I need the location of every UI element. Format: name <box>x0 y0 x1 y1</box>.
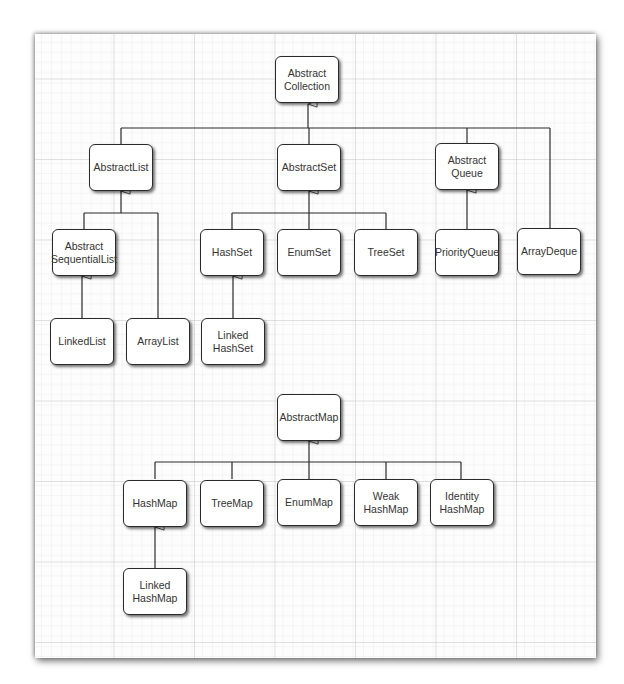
node-abstract-map: AbstractMap <box>277 394 341 441</box>
node-priority-queue: PriorityQueue <box>435 229 499 276</box>
node-enum-map: EnumMap <box>277 479 341 526</box>
node-abstract-set: AbstractSet <box>277 144 341 191</box>
node-enum-set: EnumSet <box>277 229 341 276</box>
node-tree-set: TreeSet <box>354 229 418 276</box>
node-identity-hash-map: Identity HashMap <box>430 479 494 526</box>
node-linked-list: LinkedList <box>50 318 114 365</box>
node-linked-hash-set: Linked HashSet <box>201 318 265 365</box>
node-abstract-sequential-list: Abstract SequentialList <box>52 229 116 276</box>
node-abstract-queue: Abstract Queue <box>435 143 499 190</box>
node-array-list: ArrayList <box>126 318 190 365</box>
node-linked-hash-map: Linked HashMap <box>123 568 187 615</box>
node-weak-hash-map: Weak HashMap <box>354 479 418 526</box>
node-hash-set: HashSet <box>200 229 264 276</box>
node-hash-map: HashMap <box>123 480 187 527</box>
node-abstract-collection: Abstract Collection <box>275 56 339 103</box>
node-abstract-list: AbstractList <box>89 144 153 191</box>
node-tree-map: TreeMap <box>200 480 264 527</box>
node-array-deque: ArrayDeque <box>517 228 581 275</box>
